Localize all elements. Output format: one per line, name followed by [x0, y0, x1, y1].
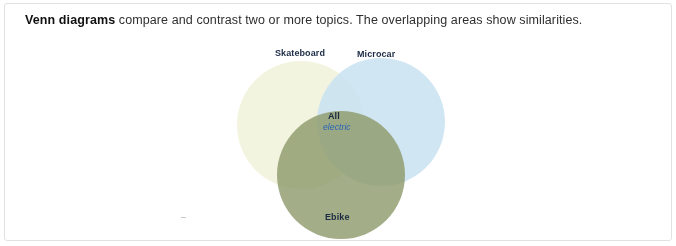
caption-lead: Venn diagrams	[25, 13, 115, 27]
venn-label-all: All	[328, 111, 340, 121]
venn-diagram: Skateboard Microcar All electric Ebike	[5, 32, 673, 240]
venn-label-skateboard: Skateboard	[275, 48, 325, 58]
caption-text: Venn diagrams compare and contrast two o…	[25, 13, 582, 27]
page-root: Venn diagrams compare and contrast two o…	[0, 0, 676, 246]
venn-label-ebike: Ebike	[325, 212, 350, 222]
caption-rest: compare and contrast two or more topics.…	[115, 13, 582, 27]
content-card: Venn diagrams compare and contrast two o…	[4, 3, 672, 241]
venn-label-electric: electric	[323, 122, 351, 132]
venn-label-microcar: Microcar	[357, 49, 395, 59]
venn-svg	[5, 32, 673, 240]
page-tick-mark	[181, 217, 186, 218]
